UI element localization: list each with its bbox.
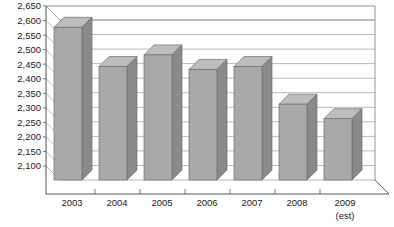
y-tick-label: 2,550 — [17, 30, 41, 41]
bar-2007[interactable] — [234, 57, 272, 181]
x-axis-labels: 2003 2004 2005 2006 2007 2008 2009 (est) — [61, 197, 355, 221]
y-tick-label: 2,400 — [17, 73, 41, 84]
bar-2004[interactable] — [99, 57, 137, 181]
x-tick-label-2007: 2007 — [241, 197, 262, 208]
bar-2003[interactable] — [54, 17, 92, 180]
x-tick-label-2009: 2009 — [334, 197, 355, 208]
bar-2009[interactable] — [324, 109, 362, 180]
y-tick-label: 2,150 — [17, 146, 41, 157]
y-tick-label: 2,350 — [17, 88, 41, 99]
x-tick-label-2003: 2003 — [61, 197, 82, 208]
y-tick-label: 2,650 — [17, 0, 41, 11]
y-tick-label: 2,450 — [17, 59, 41, 70]
y-tick-label: 2,300 — [17, 102, 41, 113]
x-tick-label-2004: 2004 — [106, 197, 127, 208]
x-tick-label-2005: 2005 — [151, 197, 172, 208]
x-tick-label-2006: 2006 — [196, 197, 217, 208]
y-tick-label: 2,600 — [17, 15, 41, 26]
bar-2005[interactable] — [144, 45, 182, 180]
y-tick-label: 2,250 — [17, 117, 41, 128]
y-axis-labels: 2,650 2,600 2,550 2,500 2,450 2,400 2,35… — [17, 0, 41, 171]
bar-2006[interactable] — [189, 59, 227, 180]
y-tick-label: 2,500 — [17, 44, 41, 55]
x-tick-sublabel-2009: (est) — [336, 210, 355, 221]
bar-2008[interactable] — [279, 94, 317, 180]
x-tick-label-2008: 2008 — [286, 197, 307, 208]
chart-canvas: 2,650 2,600 2,550 2,500 2,450 2,400 2,35… — [0, 0, 394, 227]
bar-chart: 2,650 2,600 2,550 2,500 2,450 2,400 2,35… — [0, 0, 394, 227]
y-tick-label: 2,100 — [17, 160, 41, 171]
y-tick-label: 2,200 — [17, 131, 41, 142]
